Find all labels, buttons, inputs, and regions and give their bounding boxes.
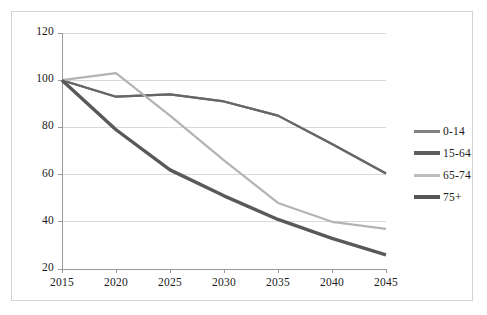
legend-item-label: 65-74 — [443, 169, 471, 181]
legend-color-swatch — [414, 151, 440, 154]
axis-lines — [62, 33, 386, 269]
y-axis-tick-label: 40 — [20, 214, 54, 226]
legend-color-swatch — [414, 195, 440, 198]
legend-color-swatch — [414, 174, 440, 177]
y-axis-tick-label: 100 — [20, 72, 54, 84]
gridlines — [62, 33, 386, 269]
x-axis-tick-label: 2025 — [148, 276, 192, 288]
line-chart-plot — [12, 12, 472, 300]
axis-ticks — [58, 33, 386, 273]
x-axis-tick-label: 2020 — [94, 276, 138, 288]
chart-legend: 0-1415-6465-7475+ — [414, 120, 487, 208]
y-axis-tick-label: 80 — [20, 119, 54, 131]
series-lines — [62, 73, 386, 255]
x-axis-tick-label: 2035 — [256, 276, 300, 288]
chart-container: 20406080100120 2015202020252030203520402… — [11, 11, 473, 301]
x-axis-tick-label: 2030 — [202, 276, 246, 288]
y-axis-tick-label: 60 — [20, 167, 54, 179]
x-axis-tick-label: 2045 — [364, 276, 408, 288]
legend-item-65-74[interactable]: 65-74 — [414, 164, 487, 186]
legend-item-75plus[interactable]: 75+ — [414, 186, 487, 208]
legend-color-swatch — [414, 130, 440, 133]
x-axis-tick-label: 2040 — [310, 276, 354, 288]
x-axis-tick-label: 2015 — [40, 276, 84, 288]
legend-item-label: 0-14 — [443, 125, 465, 137]
y-axis-tick-label: 20 — [20, 261, 54, 273]
legend-item-label: 75+ — [443, 191, 462, 203]
legend-item-label: 15-64 — [443, 147, 471, 159]
legend-item-0-14[interactable]: 0-14 — [414, 120, 487, 142]
y-axis-tick-label: 120 — [20, 25, 54, 37]
legend-item-15-64[interactable]: 15-64 — [414, 142, 487, 164]
